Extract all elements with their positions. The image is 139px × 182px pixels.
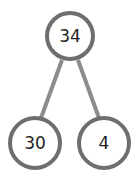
whole-node: 34 [47, 13, 93, 59]
part-value-right: 4 [99, 133, 110, 153]
connector-right [78, 60, 99, 118]
part-value-left: 30 [24, 133, 46, 153]
part-node-left: 30 [10, 118, 60, 168]
whole-value: 34 [59, 26, 81, 46]
connector-left [41, 60, 62, 118]
number-bond-diagram: 34 30 4 [0, 0, 139, 182]
part-node-right: 4 [79, 118, 129, 168]
